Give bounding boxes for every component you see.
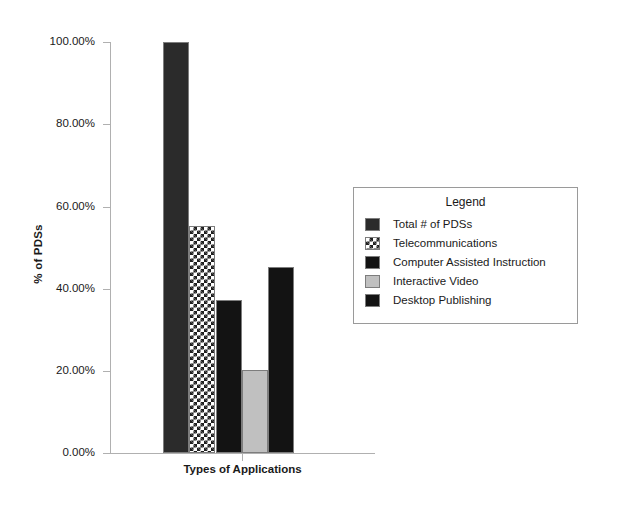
- y-tick-mark-80: [103, 124, 110, 125]
- y-axis-line: [110, 42, 111, 454]
- y-tick-label-0: 0.00%: [62, 447, 95, 459]
- legend-label-telecommunications: Telecommunications: [393, 238, 497, 250]
- y-tick-label-60: 60.00%: [56, 201, 95, 213]
- y-tick-mark-0: [103, 453, 110, 454]
- legend-swatch-icon-total-pdss: [365, 218, 380, 231]
- legend: Legend Total # of PDSs Telecommunication…: [353, 187, 578, 324]
- bar-interactive-video: [242, 370, 268, 453]
- legend-item-telecommunications: Telecommunications: [354, 234, 577, 253]
- y-tick-mark-40: [103, 289, 110, 290]
- legend-title: Legend: [354, 195, 577, 209]
- legend-item-computer-assisted-instruction: Computer Assisted Instruction: [354, 253, 577, 272]
- y-axis-title: % of PDSs: [32, 194, 44, 314]
- bar-group: [163, 42, 295, 453]
- legend-swatch-icon-computer-assisted-instruction: [365, 256, 380, 269]
- legend-label-desktop-publishing: Desktop Publishing: [393, 295, 491, 307]
- legend-item-interactive-video: Interactive Video: [354, 272, 577, 291]
- x-axis-center-tick: [242, 454, 243, 461]
- legend-label-total-pdss: Total # of PDSs: [393, 219, 472, 231]
- legend-item-desktop-publishing: Desktop Publishing: [354, 291, 577, 310]
- bar-total-pdss: [163, 42, 189, 453]
- legend-label-interactive-video: Interactive Video: [393, 276, 478, 288]
- bar-desktop-publishing: [268, 267, 294, 453]
- y-tick-mark-20: [103, 371, 110, 372]
- y-tick-label-20: 20.00%: [56, 365, 95, 377]
- y-tick-label-80: 80.00%: [56, 118, 95, 130]
- legend-swatch-icon-desktop-publishing: [365, 294, 380, 307]
- y-tick-label-100: 100.00%: [50, 36, 95, 48]
- x-axis-title: Types of Applications: [110, 463, 375, 475]
- y-tick-mark-60: [103, 207, 110, 208]
- bar-computer-assisted-instruction: [216, 300, 242, 453]
- y-tick-mark-100: [103, 42, 110, 43]
- legend-label-computer-assisted-instruction: Computer Assisted Instruction: [393, 257, 546, 269]
- legend-swatch-icon-telecommunications: [365, 237, 380, 250]
- y-tick-label-40: 40.00%: [56, 283, 95, 295]
- legend-item-total-pdss: Total # of PDSs: [354, 215, 577, 234]
- bar-chart: 100.00% 80.00% 60.00% 40.00% 20.00% 0.00…: [0, 0, 618, 505]
- legend-swatch-icon-interactive-video: [365, 275, 380, 288]
- bar-telecommunications: [189, 226, 215, 453]
